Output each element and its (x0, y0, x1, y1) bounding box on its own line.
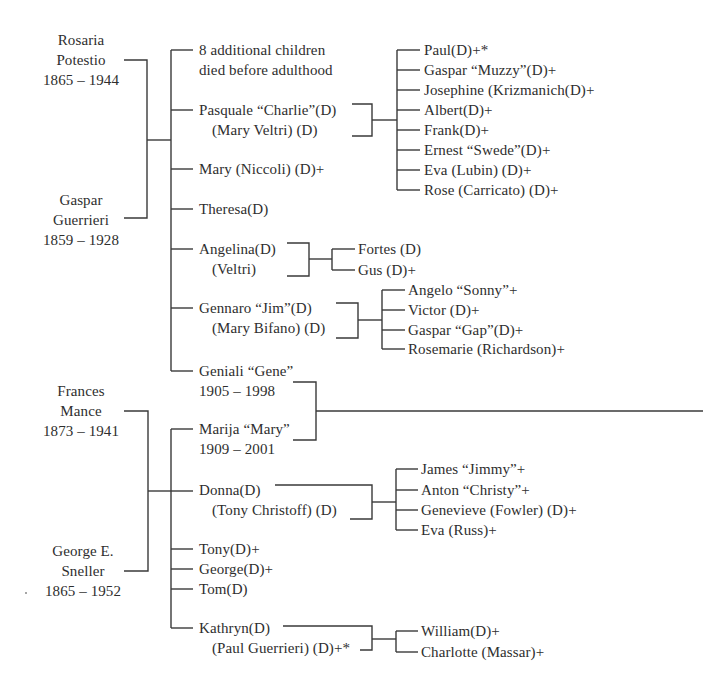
grandchild: William(D)+ (421, 621, 500, 641)
grandchild: Charlotte (Massar)+ (421, 642, 544, 662)
child-line1: Pasquale “Charlie”(D) (199, 100, 336, 120)
grandchild: Gus (D)+ (358, 260, 416, 280)
child-geniali-gene: Geniali “Gene” 1905 – 1998 (199, 361, 293, 401)
grandchild: Gaspar “Gap”(D)+ (408, 320, 523, 340)
family-tree-diagram: Rosaria Potestio 1865 – 1944 Gaspar Guer… (0, 0, 709, 688)
ancestor-gaspar-guerrieri: Gaspar Guerrieri 1859 – 1928 (26, 190, 136, 250)
child-additional-children: 8 additional children died before adulth… (199, 40, 333, 80)
ancestor-first-name: George E. (28, 541, 138, 561)
child-line1: Angelina(D) (199, 239, 276, 259)
child-pasquale: Pasquale “Charlie”(D) (Mary Veltri) (D) (199, 100, 336, 140)
child-mary-niccoli: Mary (Niccoli) (D)+ (199, 159, 324, 179)
grandchild: Rose (Carricato) (D)+ (424, 180, 559, 200)
grandchild: Eva (Lubin) (D)+ (424, 160, 532, 180)
child-line1: Kathryn(D) (199, 618, 350, 638)
ancestor-first-name: Gaspar (26, 190, 136, 210)
grandchild: Frank(D)+ (424, 120, 489, 140)
grandchild: Gaspar “Muzzy”(D)+ (424, 60, 556, 80)
grandchild: Albert(D)+ (424, 100, 493, 120)
ancestor-first-name: Frances (26, 381, 136, 401)
child-line1: Donna(D) (199, 480, 337, 500)
ancestor-dates: 1859 – 1928 (26, 230, 136, 250)
ancestor-dates: 1865 – 1944 (26, 70, 136, 90)
ancestor-frances-mance: Frances Mance 1873 – 1941 (26, 381, 136, 441)
grandchild: Eva (Russ)+ (421, 520, 497, 540)
child-spouse: (Paul Guerrieri) (D)+* (199, 638, 350, 658)
ancestor-george-sneller: George E. Sneller 1865 – 1952 (28, 541, 138, 601)
grandchild: Ernest “Swede”(D)+ (424, 140, 550, 160)
grandchild: Anton “Christy”+ (421, 480, 530, 500)
grandchild: Fortes (D) (358, 239, 421, 259)
child-spouse: (Mary Veltri) (D) (199, 120, 336, 140)
child-tony: Tony(D)+ (199, 539, 260, 559)
child-theresa: Theresa(D) (199, 199, 268, 219)
ancestor-dates: 1873 – 1941 (26, 421, 136, 441)
child-spouse: (Veltri) (199, 259, 276, 279)
child-angelina: Angelina(D) (Veltri) (199, 239, 276, 279)
grandchild: Angelo “Sonny”+ (408, 280, 518, 300)
ancestor-last-name: Potestio (26, 50, 136, 70)
ancestor-first-name: Rosaria (26, 30, 136, 50)
child-line1: Geniali “Gene” (199, 361, 293, 381)
ancestor-last-name: Mance (26, 401, 136, 421)
grandchild: Genevieve (Fowler) (D)+ (421, 500, 577, 520)
child-line1: 8 additional children (199, 40, 333, 60)
child-line2: died before adulthood (199, 60, 333, 80)
grandchild: Paul(D)+* (424, 40, 488, 60)
child-george: George(D)+ (199, 559, 273, 579)
grandchild: Victor (D)+ (408, 300, 480, 320)
child-spouse: (Mary Bifano) (D) (199, 318, 325, 338)
child-kathryn: Kathryn(D) (Paul Guerrieri) (D)+* (199, 618, 350, 658)
ancestor-last-name: Sneller (28, 561, 138, 581)
child-line1: Marija “Mary” (199, 419, 290, 439)
grandchild: James “Jimmy”+ (421, 459, 525, 479)
child-donna: Donna(D) (Tony Christoff) (D) (199, 480, 337, 520)
child-line1: Gennaro “Jim”(D) (199, 298, 325, 318)
child-gennaro: Gennaro “Jim”(D) (Mary Bifano) (D) (199, 298, 325, 338)
ancestor-dates: 1865 – 1952 (28, 581, 138, 601)
grandchild: Josephine (Krizmanich(D)+ (424, 80, 595, 100)
ancestor-last-name: Guerrieri (26, 210, 136, 230)
child-dates: 1909 – 2001 (199, 439, 290, 459)
stray-mark (25, 592, 27, 594)
child-marija-mary: Marija “Mary” 1909 – 2001 (199, 419, 290, 459)
child-dates: 1905 – 1998 (199, 381, 293, 401)
ancestor-rosaria-potestio: Rosaria Potestio 1865 – 1944 (26, 30, 136, 90)
grandchild: Rosemarie (Richardson)+ (408, 339, 565, 359)
child-tom: Tom(D) (199, 579, 248, 599)
child-spouse: (Tony Christoff) (D) (199, 500, 337, 520)
